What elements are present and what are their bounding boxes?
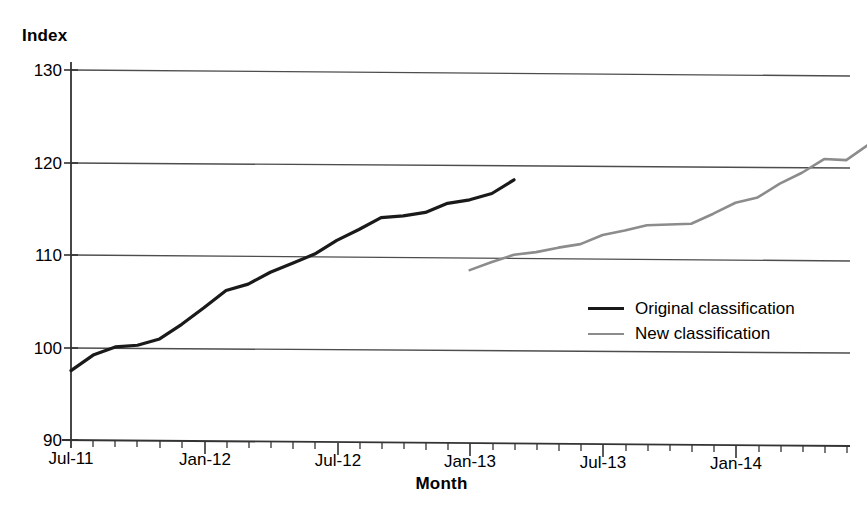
x-tick-label-jul-12: Jul-12 xyxy=(283,452,393,469)
x-axis-title-wrap: Month xyxy=(0,474,867,494)
plot-area xyxy=(0,0,867,523)
gridline-110 xyxy=(71,255,850,261)
legend-swatch-icon-original xyxy=(588,307,624,310)
legend-item-new-classification: New classification xyxy=(588,321,795,346)
x-axis-line xyxy=(62,440,850,446)
x-tick-label-jan-13: Jan-13 xyxy=(415,453,525,470)
x-tick-label-jul-11: Jul-11 xyxy=(16,450,126,467)
legend-label-new: New classification xyxy=(635,325,770,342)
series-line-original-classification xyxy=(71,180,514,371)
chart-legend: Original classification New classificati… xyxy=(588,296,795,346)
gridline-130 xyxy=(71,70,850,76)
legend-swatch-icon-new xyxy=(588,333,624,335)
gridline-100 xyxy=(71,348,850,353)
x-tick-label-jan-12: Jan-12 xyxy=(150,451,260,468)
x-tick-label-jan-14: Jan-14 xyxy=(681,455,791,472)
series-line-new-classification xyxy=(470,145,867,271)
axis-lines xyxy=(62,62,850,448)
legend-label-original: Original classification xyxy=(635,300,795,317)
chart-container: Index 130 120 110 100 90 xyxy=(0,0,867,523)
legend-item-original-classification: Original classification xyxy=(588,296,795,321)
x-axis-title: Month xyxy=(416,474,468,494)
gridline-120 xyxy=(71,163,850,168)
x-tick-label-jul-13: Jul-13 xyxy=(548,454,658,471)
